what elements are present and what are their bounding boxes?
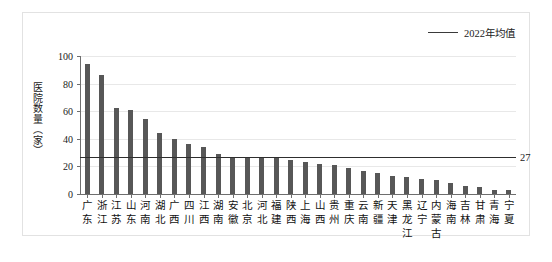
x-tick: [131, 194, 132, 198]
x-tick: [378, 194, 379, 198]
bar: [434, 180, 439, 194]
legend-label-average: 2022年均值: [464, 25, 515, 40]
bar-column: [414, 56, 429, 194]
bar-column: [385, 56, 400, 194]
bar-column: [182, 56, 197, 194]
bar: [99, 75, 104, 194]
bar: [317, 164, 322, 194]
y-tick-80: [77, 84, 81, 85]
bar-column: [458, 56, 473, 194]
x-tick: [465, 194, 466, 198]
x-tick: [436, 194, 437, 198]
bar: [375, 173, 380, 194]
x-tick: [363, 194, 364, 198]
x-tick: [320, 194, 321, 198]
x-tick: [392, 194, 393, 198]
bar-column: [196, 56, 211, 194]
y-tick-60: [77, 111, 81, 112]
x-tick: [247, 194, 248, 198]
bar: [186, 144, 191, 194]
x-tick: [349, 194, 350, 198]
bar-column: [138, 56, 153, 194]
bar: [245, 157, 250, 194]
x-tick: [494, 194, 495, 198]
x-tick: [422, 194, 423, 198]
bar: [157, 133, 162, 194]
bar-series: [80, 56, 516, 194]
bar: [259, 157, 264, 194]
y-tick-label-0: 0: [68, 189, 73, 200]
x-tick: [189, 194, 190, 198]
bar-column: [211, 56, 226, 194]
x-tick: [233, 194, 234, 198]
bar-column: [298, 56, 313, 194]
bar-column: [167, 56, 182, 194]
y-tick-label-100: 100: [58, 51, 73, 62]
x-tick: [204, 194, 205, 198]
bar: [332, 165, 337, 194]
bar-column: [371, 56, 386, 194]
bar-column: [487, 56, 502, 194]
x-tick: [262, 194, 263, 198]
bar-column: [80, 56, 95, 194]
bar: [230, 157, 235, 194]
bar-column: [240, 56, 255, 194]
x-axis-ticks: [80, 194, 516, 198]
bar: [85, 64, 90, 194]
y-tick-100: [77, 56, 81, 57]
bar-column: [443, 56, 458, 194]
y-axis-spine: [80, 56, 81, 194]
bar: [303, 162, 308, 194]
bar-column: [225, 56, 240, 194]
average-line: [80, 157, 516, 158]
x-tick-label: 宁夏: [501, 199, 517, 227]
bar: [361, 171, 366, 194]
bar: [274, 158, 279, 194]
bar: [404, 177, 409, 194]
bar: [463, 186, 468, 194]
bar: [346, 168, 351, 194]
bar-column: [342, 56, 357, 194]
bar-column: [153, 56, 168, 194]
bar: [477, 187, 482, 194]
x-tick: [218, 194, 219, 198]
x-tick: [145, 194, 146, 198]
bar-column: [501, 56, 516, 194]
bar-column: [254, 56, 269, 194]
bar-column: [313, 56, 328, 194]
chart-figure: 2022年均值 医院数量（家） 020406080100 27 广东浙江江苏山东…: [22, 12, 530, 236]
x-tick: [174, 194, 175, 198]
y-axis-title: 医院数量（家）: [29, 49, 45, 189]
average-value-label: 27: [520, 151, 531, 162]
bar-column: [109, 56, 124, 194]
bar-column: [400, 56, 415, 194]
y-tick-40: [77, 139, 81, 140]
bar-column: [472, 56, 487, 194]
x-tick: [334, 194, 335, 198]
bar: [172, 139, 177, 194]
bar: [288, 160, 293, 195]
bar-column: [283, 56, 298, 194]
bar: [201, 147, 206, 194]
x-tick: [116, 194, 117, 198]
y-tick-20: [77, 166, 81, 167]
y-tick-label-20: 20: [63, 161, 73, 172]
bar: [128, 110, 133, 194]
bar-column: [429, 56, 444, 194]
bar-column: [95, 56, 110, 194]
x-tick: [160, 194, 161, 198]
x-tick: [451, 194, 452, 198]
y-tick-label-80: 80: [63, 78, 73, 89]
horizontal-line-icon: [428, 32, 458, 33]
x-tick: [102, 194, 103, 198]
x-tick: [509, 194, 510, 198]
bar: [448, 183, 453, 194]
bar: [216, 154, 221, 194]
x-tick: [305, 194, 306, 198]
chart-legend: 2022年均值: [428, 25, 515, 39]
bar: [390, 176, 395, 194]
x-axis-tick-labels: 广东浙江江苏山东河南湖北广西四川江西湖南安徽北京河北福建陕西上海山西贵州重庆云南…: [80, 199, 516, 245]
bar-column: [327, 56, 342, 194]
x-tick: [87, 194, 88, 198]
x-tick: [407, 194, 408, 198]
